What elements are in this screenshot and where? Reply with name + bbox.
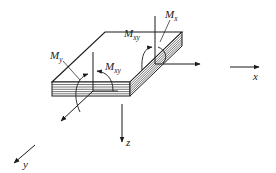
y-axis-label: y [22,158,28,170]
laminated-plate-diagram: x y z Mx My Mxy Mxy [0,0,276,173]
mx-label: Mx [164,8,178,23]
z-axis-label: z [125,136,131,148]
x-axis-label: x [252,70,258,82]
my-label: My [49,49,63,64]
plate-front-face [52,82,130,96]
